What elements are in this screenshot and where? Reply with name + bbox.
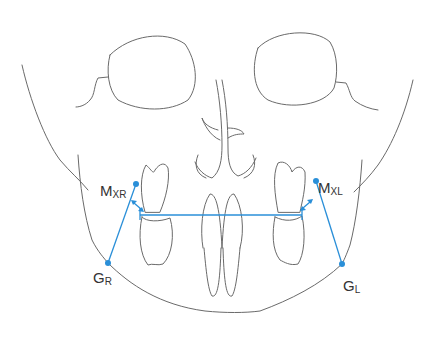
- right-ramus: [78, 155, 108, 263]
- label-gr: GR: [93, 270, 112, 287]
- label-gr-sub: R: [105, 276, 112, 287]
- nasal-floor-left: [244, 155, 255, 178]
- mandible-border: [108, 263, 342, 313]
- left-face-contour: [354, 80, 413, 192]
- left-lower-molar: [273, 216, 304, 265]
- upper-incisors: [202, 194, 243, 248]
- landmark-gr-dot: [105, 260, 111, 266]
- label-mxr-main: M: [100, 182, 113, 199]
- right-upper-molar: [141, 164, 168, 212]
- skull-outline-drawing: [0, 0, 434, 350]
- label-mxr: MXR: [100, 183, 126, 200]
- nasal-septum: [195, 80, 256, 178]
- left-ramus: [342, 160, 362, 264]
- right-lower-molar: [140, 217, 172, 265]
- nasal-concha-left: [228, 128, 244, 138]
- left-upper-molar: [275, 162, 306, 212]
- label-gr-main: G: [93, 269, 105, 286]
- cephalometric-diagram: MXR MXL GR GL: [0, 0, 434, 350]
- label-gl-main: G: [343, 277, 355, 294]
- label-gl-sub: L: [355, 284, 361, 295]
- label-mxl-sub: XL: [331, 186, 343, 197]
- label-gl: GL: [343, 278, 360, 295]
- right-orbit: [108, 36, 195, 109]
- left-zygoma: [336, 82, 378, 110]
- landmark-gl-dot: [339, 261, 345, 267]
- right-zygoma: [76, 77, 108, 107]
- lower-incisors: [204, 248, 240, 296]
- landmark-mxr-dot: [133, 181, 139, 187]
- figure-caption: [100, 338, 420, 344]
- label-mxl-main: M: [318, 179, 331, 196]
- left-orbit: [254, 33, 336, 105]
- nasal-concha-right: [202, 118, 220, 140]
- label-mxl: MXL: [318, 180, 343, 197]
- right-face-contour: [22, 65, 88, 190]
- label-mxr-sub: XR: [113, 189, 127, 200]
- right-double-arrow-icon: [131, 200, 144, 212]
